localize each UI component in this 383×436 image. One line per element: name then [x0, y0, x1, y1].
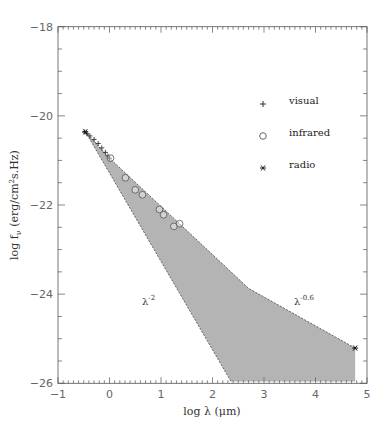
infrared-point	[132, 186, 139, 193]
sed-chart: −1012345−18−20−22−24−26 log λ (μm) log f…	[0, 0, 383, 436]
y-tick-label: −26	[30, 377, 53, 390]
legend-label-visual: visual	[288, 95, 319, 106]
x-tick-label: 3	[261, 388, 268, 401]
x-axis-title: log λ (μm)	[183, 405, 240, 418]
circle-marker-icon	[260, 133, 267, 140]
legend-label-radio: radio	[289, 159, 315, 170]
y-tick-label: −22	[30, 199, 53, 212]
y-axis-title: log fν (erg/cm2s.Hz)	[8, 150, 23, 260]
infrared-point	[160, 211, 167, 218]
plus-marker-icon	[260, 101, 266, 107]
asterisk-marker-icon	[260, 165, 266, 170]
y-tick-label: −20	[30, 110, 53, 123]
annotation-lambda-minus-0-6: λ-0.6	[294, 294, 314, 307]
annotation-lambda-minus-2: λ-2	[142, 294, 155, 307]
legend-item-infrared: infrared	[260, 127, 331, 139]
legend-label-infrared: infrared	[289, 127, 331, 138]
x-tick-label: 0	[106, 388, 113, 401]
legend-item-radio: radio	[260, 159, 315, 171]
x-tick-label: 1	[158, 388, 165, 401]
infrared-point	[176, 220, 183, 227]
y-tick-label: −24	[30, 288, 53, 301]
y-tick-label: −18	[30, 21, 53, 34]
infrared-point	[107, 155, 114, 162]
x-tick-label: 4	[312, 388, 319, 401]
infrared-point	[139, 191, 146, 198]
legend: visual infrared radio	[260, 95, 331, 171]
legend-item-visual: visual	[260, 95, 319, 107]
x-tick-label: 5	[364, 388, 371, 401]
x-tick-label: 2	[209, 388, 216, 401]
infrared-point	[122, 174, 129, 181]
